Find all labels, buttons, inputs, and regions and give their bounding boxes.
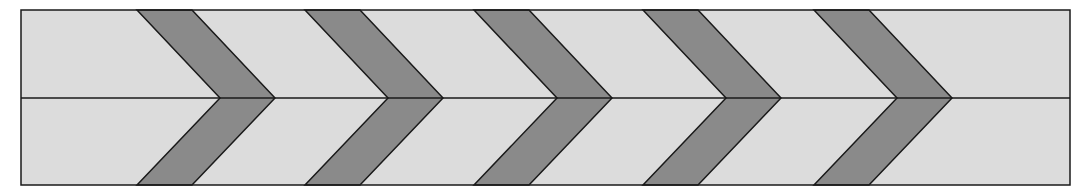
chevron-pattern-diagram — [0, 0, 1090, 189]
